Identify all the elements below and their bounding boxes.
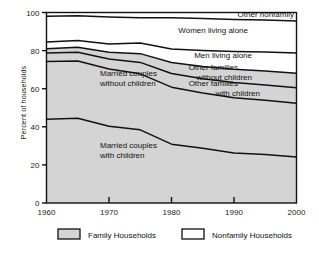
x-tick-label: 2000: [288, 208, 306, 217]
y-tick-label: 60: [31, 85, 40, 94]
x-tick-label: 1990: [225, 208, 243, 217]
legend-swatch: [58, 229, 80, 239]
y-tick-label: 100: [26, 9, 40, 18]
series-label: Men living alone: [194, 51, 252, 60]
y-tick-label: 40: [31, 123, 40, 132]
series-label: Other nonfamily: [238, 10, 294, 19]
legend-label: Family Households: [88, 231, 156, 240]
stacked-area-chart: 020406080100 19601970198019902000 Marrie…: [0, 0, 319, 256]
chart-legend: Family HouseholdsNonfamily Households: [58, 229, 292, 240]
y-axis-ticks: 020406080100: [26, 9, 46, 209]
series-label: Women living alone: [178, 26, 248, 35]
x-tick-label: 1960: [38, 208, 56, 217]
legend-label: Nonfamily Households: [212, 231, 292, 240]
x-tick-label: 1970: [100, 208, 118, 217]
legend-swatch: [182, 229, 204, 239]
y-tick-label: 0: [35, 199, 40, 208]
x-tick-label: 1980: [163, 208, 181, 217]
y-tick-label: 80: [31, 47, 40, 56]
chart-figure: Percent of households 020406080100 19601…: [0, 0, 319, 256]
series-label: Married coupleswithout children: [99, 69, 157, 88]
y-tick-label: 20: [31, 161, 40, 170]
